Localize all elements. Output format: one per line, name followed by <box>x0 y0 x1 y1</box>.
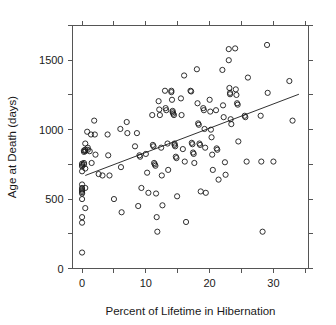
data-point <box>203 190 208 195</box>
data-point <box>210 152 215 157</box>
data-point <box>166 167 171 172</box>
data-point <box>203 145 208 150</box>
data-point <box>290 118 295 123</box>
data-point <box>107 173 112 178</box>
data-point <box>271 159 276 164</box>
data-point <box>210 167 215 172</box>
data-point <box>222 160 227 165</box>
data-point <box>134 131 139 136</box>
data-point <box>244 159 249 164</box>
data-point <box>226 58 231 63</box>
data-point <box>125 131 130 136</box>
data-point <box>106 153 111 158</box>
data-point <box>119 210 124 215</box>
data-point <box>136 203 141 208</box>
data-point <box>192 160 197 165</box>
data-point <box>233 46 238 51</box>
data-point <box>220 67 225 72</box>
data-point <box>258 113 263 118</box>
x-tick-label: 10 <box>140 277 152 289</box>
data-point <box>216 177 221 182</box>
data-point <box>209 135 214 140</box>
data-point <box>139 185 144 190</box>
data-point <box>89 160 94 165</box>
data-point <box>183 219 188 224</box>
y-axis-title: Age at Death (days) <box>6 96 18 198</box>
data-point <box>182 73 187 78</box>
data-point <box>233 87 238 92</box>
data-point <box>118 126 123 131</box>
x-tick-label: 30 <box>267 277 279 289</box>
data-point <box>79 196 84 201</box>
data-point <box>79 220 84 225</box>
data-point <box>157 107 162 112</box>
data-point <box>194 67 199 72</box>
data-point <box>207 97 212 102</box>
data-point <box>226 47 231 52</box>
data-point <box>159 173 164 178</box>
plot-frame <box>73 26 309 269</box>
x-tick-label: 20 <box>204 277 216 289</box>
data-point <box>175 194 180 199</box>
data-point <box>83 206 88 211</box>
y-tick-label: 1500 <box>39 54 63 66</box>
data-point <box>229 121 234 126</box>
y-tick-label: 0 <box>57 263 63 275</box>
plot-canvas: 0102030050010001500Percent of Lifetime i… <box>0 0 336 325</box>
data-point <box>213 108 218 113</box>
data-point <box>223 172 228 177</box>
data-point <box>150 112 155 117</box>
data-point <box>287 78 292 83</box>
data-point <box>221 115 226 120</box>
data-point <box>155 229 160 234</box>
data-point <box>154 215 159 220</box>
data-point <box>234 92 239 97</box>
data-point <box>118 165 123 170</box>
y-tick-label: 500 <box>45 193 63 205</box>
data-point <box>182 159 187 164</box>
data-point <box>180 146 185 151</box>
data-point <box>236 139 241 144</box>
data-point <box>145 170 150 175</box>
data-point <box>83 185 88 190</box>
data-point <box>198 189 203 194</box>
data-point <box>178 96 183 101</box>
data-point <box>260 229 265 234</box>
data-point <box>162 88 167 93</box>
data-point <box>156 99 161 104</box>
data-points-group <box>79 42 295 255</box>
data-point <box>195 101 200 106</box>
data-point <box>264 42 269 47</box>
data-point <box>153 191 158 196</box>
y-tick-label: 1000 <box>39 124 63 136</box>
data-point <box>169 97 174 102</box>
data-point <box>124 119 129 124</box>
data-point <box>227 85 232 90</box>
data-point <box>245 75 250 80</box>
data-point <box>92 118 97 123</box>
data-point <box>79 250 84 255</box>
data-point <box>265 90 270 95</box>
x-tick-label: 0 <box>79 277 85 289</box>
data-point <box>146 190 151 195</box>
data-point <box>79 215 84 220</box>
data-point <box>179 112 184 117</box>
data-point <box>92 132 97 137</box>
data-point <box>132 144 137 149</box>
scatter-plot-figure: 0102030050010001500Percent of Lifetime i… <box>0 0 336 325</box>
data-point <box>157 112 162 117</box>
data-point <box>259 159 264 164</box>
data-point <box>93 152 98 157</box>
x-axis-title: Percent of Lifetime in Hibernation <box>105 305 275 317</box>
data-point <box>220 103 225 108</box>
data-point <box>160 203 165 208</box>
data-point <box>208 109 213 114</box>
data-point <box>105 132 110 137</box>
data-point <box>111 196 116 201</box>
